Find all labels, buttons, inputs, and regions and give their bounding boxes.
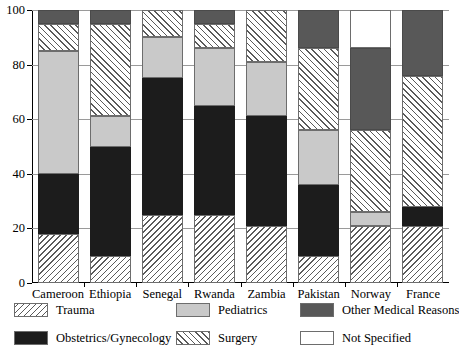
segment-cameroon-trauma[interactable] [38, 234, 79, 283]
y-axis-label-20: 20 [13, 222, 26, 235]
segment-cameroon-pediatrics[interactable] [38, 51, 79, 174]
x-axis-label-pakistan: Pakistan [298, 288, 340, 301]
segment-ethiopia-trauma[interactable] [90, 256, 131, 283]
segment-zambia-pediatrics[interactable] [246, 62, 287, 117]
x-tick-zambia [293, 283, 294, 287]
plot-area: 020406080100CameroonEthiopiaSenegalRwand… [32, 10, 449, 283]
segment-france-trauma[interactable] [402, 226, 443, 283]
segment-rwanda-trauma[interactable] [194, 215, 235, 283]
x-tick-pakistan [345, 283, 346, 287]
y-tick-80 [27, 65, 32, 66]
segment-norway-surgery[interactable] [350, 130, 391, 212]
legend-swatch-other-medical-reasons [300, 303, 334, 317]
segment-rwanda-pediatrics[interactable] [194, 48, 235, 105]
segment-zambia-trauma[interactable] [246, 226, 287, 283]
bar-zambia[interactable] [246, 10, 287, 283]
x-tick-rwanda [241, 283, 242, 287]
y-axis-label-40: 40 [13, 168, 26, 181]
bar-france[interactable] [402, 10, 443, 283]
segment-zambia-obstetrics-gynecology[interactable] [246, 116, 287, 225]
x-tick-cameroon [84, 283, 85, 287]
bar-pakistan[interactable] [298, 10, 339, 283]
x-axis-label-cameroon: Cameroon [32, 288, 84, 301]
legend-label-surgery: Surgery [218, 330, 257, 347]
legend-swatch-surgery [176, 331, 210, 345]
chart-legend: TraumaPediatricsOther Medical ReasonsObs… [0, 302, 455, 358]
segment-france-obstetrics-gynecology[interactable] [402, 207, 443, 226]
segment-ethiopia-other-medical-reasons[interactable] [90, 10, 131, 24]
segment-rwanda-obstetrics-gynecology[interactable] [194, 106, 235, 215]
segment-norway-other-medical-reasons[interactable] [350, 48, 391, 130]
y-axis-label-100: 100 [6, 4, 25, 17]
segment-france-other-medical-reasons[interactable] [402, 10, 443, 76]
segment-cameroon-obstetrics-gynecology[interactable] [38, 174, 79, 234]
segment-ethiopia-surgery[interactable] [90, 24, 131, 117]
y-axis-label-60: 60 [13, 113, 26, 126]
x-axis-label-zambia: Zambia [247, 288, 285, 301]
legend-label-not-specified: Not Specified [342, 330, 411, 347]
x-tick-senegal [188, 283, 189, 287]
segment-pakistan-pediatrics[interactable] [298, 130, 339, 185]
segment-senegal-obstetrics-gynecology[interactable] [142, 78, 183, 215]
segment-ethiopia-pediatrics[interactable] [90, 116, 131, 146]
segment-pakistan-other-medical-reasons[interactable] [298, 10, 339, 48]
y-tick-40 [27, 174, 32, 175]
segment-ethiopia-obstetrics-gynecology[interactable] [90, 147, 131, 256]
x-axis-label-norway: Norway [351, 288, 391, 301]
y-tick-0 [27, 283, 32, 284]
segment-rwanda-other-medical-reasons[interactable] [194, 10, 235, 24]
legend-swatch-obstetrics-gynecology [14, 331, 48, 345]
x-tick-norway [397, 283, 398, 287]
segment-france-surgery[interactable] [402, 76, 443, 207]
legend-swatch-not-specified [300, 331, 334, 345]
legend-label-pediatrics: Pediatrics [218, 302, 267, 319]
bar-rwanda[interactable] [194, 10, 235, 283]
segment-norway-not-specified[interactable] [350, 10, 391, 48]
y-axis-label-0: 0 [19, 277, 25, 290]
bar-norway[interactable] [350, 10, 391, 283]
segment-senegal-pediatrics[interactable] [142, 37, 183, 78]
y-axis-line [32, 10, 33, 283]
y-axis-label-80: 80 [13, 58, 26, 71]
bar-senegal[interactable] [142, 10, 183, 283]
legend-swatch-trauma [14, 303, 48, 317]
x-axis-label-ethiopia: Ethiopia [89, 288, 131, 301]
legend-swatch-pediatrics [176, 303, 210, 317]
segment-pakistan-trauma[interactable] [298, 256, 339, 283]
x-axis-label-france: France [406, 288, 440, 301]
segment-zambia-surgery[interactable] [246, 10, 287, 62]
x-axis-label-rwanda: Rwanda [194, 288, 235, 301]
legend-label-other-medical-reasons: Other Medical Reasons [342, 302, 459, 319]
segment-senegal-trauma[interactable] [142, 215, 183, 283]
x-tick-ethiopia [136, 283, 137, 287]
segment-cameroon-surgery[interactable] [38, 24, 79, 51]
segment-pakistan-obstetrics-gynecology[interactable] [298, 185, 339, 256]
x-axis-label-senegal: Senegal [143, 288, 183, 301]
segment-pakistan-surgery[interactable] [298, 48, 339, 130]
y-tick-60 [27, 119, 32, 120]
legend-label-trauma: Trauma [56, 302, 94, 319]
bar-cameroon[interactable] [38, 10, 79, 283]
segment-cameroon-other-medical-reasons[interactable] [38, 10, 79, 24]
segment-senegal-surgery[interactable] [142, 10, 183, 37]
segment-norway-trauma[interactable] [350, 226, 391, 283]
bar-ethiopia[interactable] [90, 10, 131, 283]
segment-rwanda-surgery[interactable] [194, 24, 235, 49]
y-tick-100 [27, 10, 32, 11]
legend-label-obstetrics-gynecology: Obstetrics/Gynecology [56, 330, 171, 347]
segment-norway-pediatrics[interactable] [350, 212, 391, 226]
y-tick-20 [27, 228, 32, 229]
